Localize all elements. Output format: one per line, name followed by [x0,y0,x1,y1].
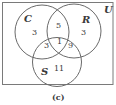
venn-diagram: U C R S 3 3 11 5 3 9 1 (c) [0,0,116,105]
set-label-c: C [24,13,32,24]
region-r-only: 3 [81,28,86,37]
region-r-and-s: 9 [68,41,73,50]
figure-caption: (c) [52,92,65,102]
region-c-r-s: 1 [57,37,62,46]
universe-label: U [104,4,114,15]
region-c-and-s: 3 [44,41,49,50]
set-label-r: R [81,14,90,25]
set-label-s: S [41,66,48,77]
circle-r [47,4,101,58]
region-c-and-r: 5 [56,21,61,30]
region-s-only: 11 [54,64,64,73]
region-c-only: 3 [32,28,37,37]
